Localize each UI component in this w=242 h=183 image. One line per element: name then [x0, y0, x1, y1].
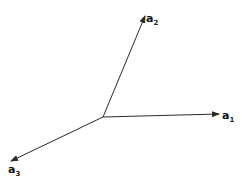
vector-a3-label: a3 [8, 163, 20, 178]
lattice-vectors-diagram: a1 a2 a3 [0, 0, 242, 183]
vector-a1-arrow [103, 114, 219, 117]
vector-a3-arrow [11, 117, 103, 161]
vector-a1-label: a1 [222, 109, 234, 124]
vector-a2-arrow [103, 16, 145, 117]
vector-a2-label: a2 [146, 12, 158, 27]
